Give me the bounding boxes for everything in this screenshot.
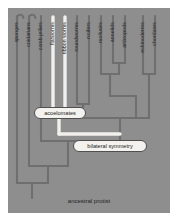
cladogram-svg <box>8 8 170 213</box>
cladogram-figure: sponges cnidarians comb jellies flatworm… <box>0 0 178 223</box>
node-label-bilateral-symmetry: bilateral symmetry <box>73 140 147 152</box>
cladogram-branches <box>8 8 170 213</box>
cladogram-panel: sponges cnidarians comb jellies flatworm… <box>8 8 170 213</box>
root-label-ancestral-protist: ancestral protist <box>8 198 170 204</box>
cap-cnidarians <box>29 15 35 20</box>
cap-sponges <box>17 15 23 20</box>
node-label-acoelomates: acoelomates <box>34 107 86 119</box>
